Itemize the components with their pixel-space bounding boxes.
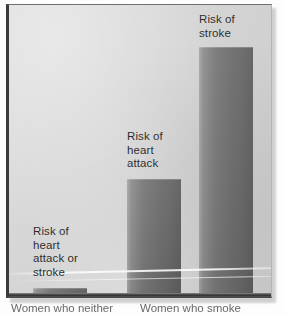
bar-risk-stroke xyxy=(199,47,253,297)
category-label-women-who-smoke: Women who smoke xyxy=(140,302,241,315)
category-label-women-who-neither: Women who neither xyxy=(11,302,113,315)
chart-panel: Risk of heart attack or stroke Risk of h… xyxy=(6,4,272,298)
axis-baseline xyxy=(9,293,271,296)
bar-label-risk-heart-attack-or-stroke: Risk of heart attack or stroke xyxy=(33,225,78,279)
scanned-chart-image: Risk of heart attack or stroke Risk of h… xyxy=(0,0,285,316)
bar-label-risk-stroke: Risk of stroke xyxy=(199,13,235,40)
bar-label-risk-heart-attack: Risk of heart attack xyxy=(127,130,163,171)
bar-risk-heart-attack xyxy=(127,179,181,297)
